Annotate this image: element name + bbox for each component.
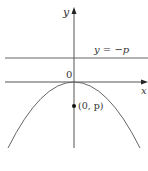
diagram-labels: y x 0 y = −p (0, p) — [0, 0, 148, 171]
parabola-diagram: y x 0 y = −p (0, p) — [0, 0, 148, 171]
y-axis-label: y — [62, 6, 70, 19]
origin-label: 0 — [66, 69, 72, 80]
x-axis-label: x — [141, 85, 147, 96]
directrix-label: y = −p — [93, 44, 130, 55]
focus-label: (0, p) — [78, 100, 104, 111]
caption-container — [0, 161, 148, 171]
